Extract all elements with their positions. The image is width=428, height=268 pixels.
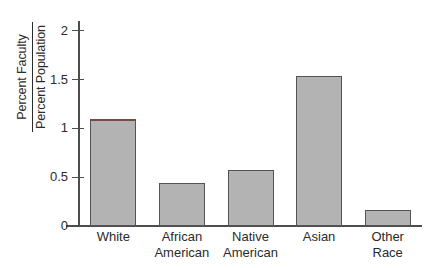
y-tick-label: 0.5 — [24, 170, 68, 183]
y-tick-label: 1 — [24, 121, 68, 134]
bar — [228, 170, 274, 226]
x-tick-label: White — [79, 229, 148, 245]
bar — [90, 119, 136, 226]
bar — [365, 210, 411, 226]
bars-layer — [79, 21, 422, 226]
x-tick-label: African American — [148, 229, 217, 260]
x-axis-tick-labels: WhiteAfrican AmericanNative AmericanAsia… — [79, 229, 422, 267]
x-tick-label: Other Race — [353, 229, 422, 260]
y-tick-label: 1.5 — [24, 73, 68, 86]
bar — [296, 76, 342, 226]
y-tick-label: 2 — [24, 24, 68, 37]
bar-chart-figure: Percent Faculty Percent Population 00.51… — [0, 0, 428, 268]
x-tick-label: Native American — [216, 229, 285, 260]
y-tick-label: 0 — [24, 219, 68, 232]
x-tick-label: Asian — [285, 229, 354, 245]
bar — [159, 183, 205, 226]
